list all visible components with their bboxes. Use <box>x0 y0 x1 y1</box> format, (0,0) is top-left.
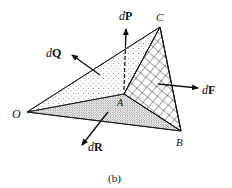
vertex-label-o: O <box>12 107 21 121</box>
tetrahedron-diagram: O A B C dP dQ dF dR (b) <box>0 0 232 188</box>
figure-caption: (b) <box>108 172 121 185</box>
vector-dq-arrow <box>72 55 100 75</box>
vector-label-dq: dQ <box>46 46 61 60</box>
vertex-label-a: A <box>116 97 124 108</box>
vector-dp-arrow <box>126 29 127 45</box>
vertex-label-c: C <box>156 11 164 23</box>
vertex-label-b: B <box>176 136 183 148</box>
vector-label-dr: dR <box>88 140 103 154</box>
vector-label-df: dF <box>202 83 215 97</box>
vector-label-dp: dP <box>119 9 132 23</box>
